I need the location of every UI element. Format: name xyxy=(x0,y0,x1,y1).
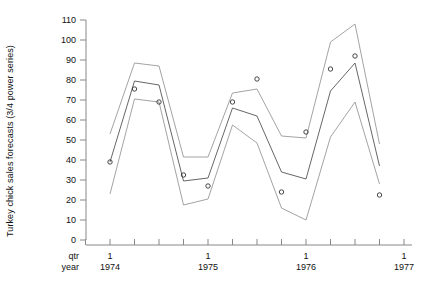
data-point-marker xyxy=(353,54,357,58)
x-year-label: 1976 xyxy=(296,262,316,272)
x-axis-ticks xyxy=(86,239,405,245)
data-point-marker xyxy=(328,67,332,71)
y-tick-label: 110 xyxy=(62,15,76,25)
x-quarter-label: 1 xyxy=(107,251,112,261)
data-point-marker xyxy=(377,193,381,197)
y-axis-ticks: 0102030405060708090100110 xyxy=(61,15,86,245)
y-tick-label: 20 xyxy=(66,195,76,205)
x-year-label: 1977 xyxy=(394,262,414,272)
data-point-marker xyxy=(230,100,234,104)
x-quarter-label: 1 xyxy=(205,251,210,261)
y-tick-label: 50 xyxy=(66,135,76,145)
chart-plot: 0102030405060708090100110 11974119751197… xyxy=(0,0,438,282)
series-lower-forecast-bound xyxy=(110,99,380,220)
y-tick-label: 60 xyxy=(66,115,76,125)
series-central-forecast xyxy=(110,63,380,181)
y-tick-label: 30 xyxy=(66,175,76,185)
y-tick-label: 100 xyxy=(61,35,76,45)
chart-container: Turkey chick sales forecasts (3/4 power … xyxy=(0,0,438,282)
x-quarter-label: 1 xyxy=(303,251,308,261)
series-line xyxy=(110,24,380,157)
data-point-marker xyxy=(206,184,210,188)
series-upper-forecast-bound xyxy=(110,24,380,157)
chart-series-group xyxy=(108,24,382,220)
x-quarter-label: 1 xyxy=(401,251,406,261)
corner-label-qtr: qtr xyxy=(68,251,79,261)
x-axis-labels: 11974119751197611977 xyxy=(100,251,414,272)
data-point-marker xyxy=(132,87,136,91)
x-year-label: 1974 xyxy=(100,262,120,272)
y-tick-label: 0 xyxy=(71,235,76,245)
y-tick-label: 80 xyxy=(66,75,76,85)
axis-corner-labels: qtryear xyxy=(61,251,79,272)
x-year-label: 1975 xyxy=(198,262,218,272)
y-tick-label: 10 xyxy=(66,215,76,225)
series-line xyxy=(110,63,380,181)
y-tick-label: 40 xyxy=(66,155,76,165)
series-observed xyxy=(108,54,382,197)
series-line xyxy=(110,99,380,220)
corner-label-year: year xyxy=(61,262,79,272)
y-tick-label: 70 xyxy=(66,95,76,105)
data-point-marker xyxy=(279,190,283,194)
data-point-marker xyxy=(255,77,259,81)
y-tick-label: 90 xyxy=(66,55,76,65)
